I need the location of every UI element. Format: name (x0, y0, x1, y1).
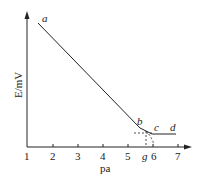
tick-7: 7 (175, 150, 181, 162)
y-axis-arrow-icon (25, 11, 30, 19)
x-axis-label: pa (100, 162, 111, 174)
potential-curve (38, 23, 176, 134)
tick-4: 4 (100, 150, 106, 162)
tick-g: g (142, 150, 148, 162)
tick-2: 2 (50, 150, 56, 162)
label-a: a (42, 12, 48, 24)
label-b: b (137, 115, 143, 127)
potential-diagram: a b c d 1 2 3 4 5 g 6 7 pa E/mV (0, 0, 198, 185)
tick-6: 6 (151, 150, 157, 162)
y-axis-label: E/mV (12, 72, 24, 98)
label-d: d (170, 121, 176, 133)
x-axis-arrow-icon (184, 145, 192, 150)
tick-3: 3 (75, 150, 81, 162)
label-c: c (154, 121, 159, 133)
tick-5: 5 (125, 150, 131, 162)
tick-1: 1 (24, 150, 30, 162)
